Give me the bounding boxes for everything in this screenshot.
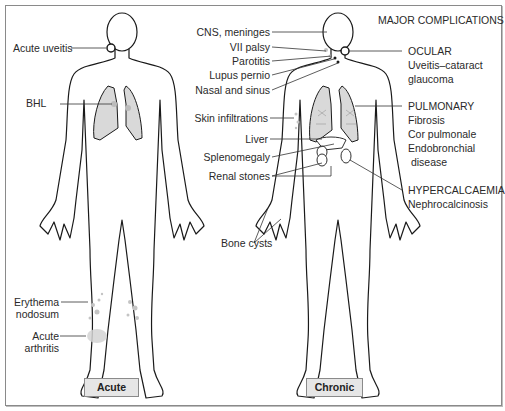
label-lupus-pernio: Lupus pernio: [180, 69, 270, 81]
label-bone-cysts: Bone cysts: [221, 237, 272, 249]
kidney-right: [341, 149, 351, 163]
acute-right-lung: [124, 86, 142, 140]
label-erythema-2: nodosum: [5, 308, 59, 320]
label-pulmonary-line-4: disease: [408, 156, 447, 168]
label-pulmonary-line-2: Cor pulmonale: [408, 128, 476, 140]
label-ocular-line-2: glaucoma: [408, 73, 454, 85]
label-arthritis-1: Acute: [5, 330, 59, 342]
label-nasal-sinus: Nasal and sinus: [180, 84, 270, 96]
label-liver: Liver: [180, 133, 268, 145]
caption-acute: Acute: [84, 378, 139, 397]
acute-left-lung: [94, 86, 118, 140]
label-erythema-1: Erythema: [5, 296, 59, 308]
label-parotitis: Parotitis: [180, 55, 270, 67]
label-vii-palsy: VII palsy: [180, 41, 270, 53]
label-cns: CNS, meninges: [180, 26, 270, 38]
caption-chronic: Chronic: [306, 378, 363, 397]
label-pulmonary-line-3: Endobronchial: [408, 142, 475, 154]
label-pulmonary-line-1: Fibrosis: [408, 114, 445, 126]
label-renal-stones: Renal stones: [180, 170, 270, 182]
label-ocular-line-1: Uveitis–cataract: [408, 59, 483, 71]
label-hypercalcaemia-line-1: Nephrocalcinosis: [408, 198, 488, 210]
label-bhl: BHL: [26, 97, 46, 109]
label-acute-uveitis: Acute uveitis: [13, 42, 73, 54]
label-pulmonary-heading: PULMONARY: [408, 100, 474, 112]
label-arthritis-2: arthritis: [5, 342, 59, 354]
chronic-body-figure: [254, 13, 420, 398]
diagram-title: MAJOR COMPLICATIONS: [378, 14, 504, 26]
acute-eye-marker: [107, 44, 115, 52]
label-splenomegaly: Splenomegaly: [180, 151, 270, 163]
acute-ankle-highlight: [87, 329, 107, 343]
label-skin-infiltrations: Skin infiltrations: [180, 112, 268, 124]
chronic-eye-marker: [341, 47, 349, 55]
label-hypercalcaemia-heading: HYPERCALCAEMIA: [408, 184, 505, 196]
label-ocular-heading: OCULAR: [408, 45, 452, 57]
